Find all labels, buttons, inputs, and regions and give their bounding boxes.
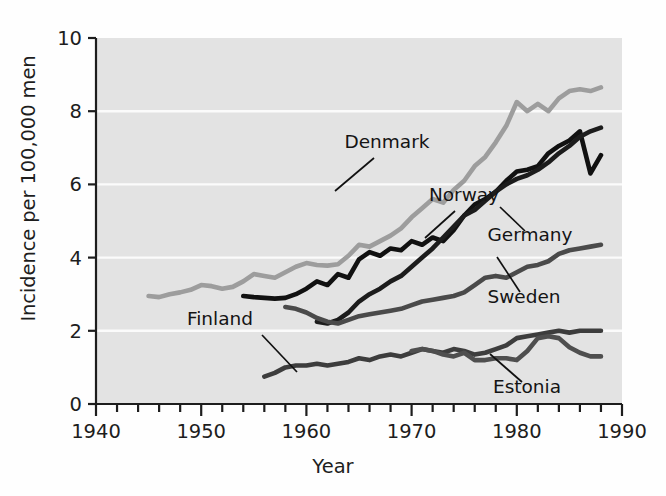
series-label-germany: Germany — [487, 224, 572, 245]
series-label-estonia: Estonia — [493, 376, 561, 397]
chart-container: 0246810 194019501960197019801990 Denmark… — [0, 0, 666, 496]
x-axis-ticks: 194019501960197019801990 — [71, 404, 647, 443]
series-label-sweden: Sweden — [487, 286, 560, 307]
y-axis-label: Incidence per 100,000 men — [17, 19, 40, 359]
x-tick-label: 1940 — [71, 420, 121, 443]
plot-background — [96, 38, 622, 404]
y-tick-label: 8 — [70, 100, 82, 123]
x-tick-label: 1990 — [597, 420, 647, 443]
y-tick-label: 6 — [70, 173, 82, 196]
x-axis-label: Year — [0, 455, 666, 478]
incidence-line-chart: 0246810 194019501960197019801990 Denmark… — [0, 0, 666, 496]
x-tick-label: 1960 — [282, 420, 332, 443]
series-label-finland: Finland — [187, 308, 253, 329]
y-tick-label: 0 — [70, 393, 82, 416]
y-tick-label: 10 — [57, 27, 82, 50]
y-tick-label: 4 — [70, 247, 82, 270]
series-label-norway: Norway — [429, 184, 499, 205]
x-tick-label: 1970 — [387, 420, 437, 443]
x-tick-label: 1980 — [492, 420, 542, 443]
series-label-denmark: Denmark — [344, 131, 429, 152]
y-axis-ticks: 0246810 — [57, 27, 96, 416]
y-tick-label: 2 — [70, 320, 82, 343]
x-tick-label: 1950 — [176, 420, 226, 443]
